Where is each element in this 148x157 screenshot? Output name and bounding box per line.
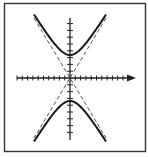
hyperbola-plot <box>0 0 148 157</box>
x-axis-arrow-icon <box>127 75 136 82</box>
coordinate-axes <box>17 18 136 140</box>
hyperbola-figure <box>0 0 148 157</box>
